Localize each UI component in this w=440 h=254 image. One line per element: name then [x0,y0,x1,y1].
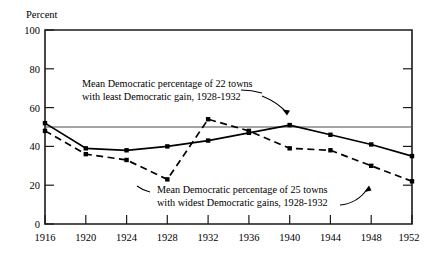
x-label-1928: 1928 [157,232,178,243]
x-label-1940: 1940 [279,232,300,243]
y-label-80: 80 [30,64,41,75]
x-label-1916: 1916 [35,232,56,243]
data-point [84,146,88,150]
series-line-widest-gains [45,119,412,181]
x-label-1952: 1952 [399,232,420,243]
y-label-60: 60 [30,103,41,114]
data-point [206,138,210,142]
annotation-least-gain-line1: Mean Democratic percentage of 22 towns [82,78,253,89]
data-point [84,152,88,156]
data-point [328,148,332,152]
data-point [328,133,332,137]
y-axis-labels: 100 80 60 40 20 0 [24,25,40,230]
data-point [124,148,128,152]
data-point [287,146,291,150]
y-axis-title: Percent [26,9,58,20]
x-axis-ticks [45,215,412,224]
chart-page: Percent 100 80 60 40 20 0 [0,0,440,254]
data-point [410,154,414,158]
y-label-20: 20 [30,180,41,191]
x-label-1948: 1948 [361,232,382,243]
x-label-1932: 1932 [198,232,219,243]
data-point [410,179,414,183]
data-point [43,121,47,125]
data-point [206,117,210,121]
x-label-1936: 1936 [238,232,259,243]
data-point [369,164,373,168]
data-point [124,158,128,162]
leader-upper-tail [241,90,262,93]
x-axis-labels: 1916 1920 1924 1928 1932 1936 1940 1944 … [35,232,420,243]
leader-lower [340,188,368,205]
annotation-widest-gains-line2: with widest Democratic gains, 1928-1932 [157,197,328,208]
x-label-1920: 1920 [75,232,96,243]
data-point [43,129,47,133]
x-label-1944: 1944 [320,232,342,243]
y-label-40: 40 [30,141,41,152]
arrowhead-upper-icon [283,110,291,116]
annotation-widest-gains: Mean Democratic percentage of 25 towns w… [157,184,328,208]
data-point [165,177,169,181]
leader-lower-tail [137,186,150,192]
data-point [369,142,373,146]
data-point [247,129,251,133]
y-label-100: 100 [24,25,40,36]
annotation-widest-gains-line1: Mean Democratic percentage of 25 towns [157,184,328,195]
line-chart: Percent 100 80 60 40 20 0 [0,0,440,254]
annotation-least-gain: Mean Democratic percentage of 22 towns w… [82,78,253,102]
arrowhead-lower-icon [365,186,372,193]
y-label-0: 0 [35,219,40,230]
series-line-least-gain [45,123,412,156]
data-point [287,123,291,127]
x-label-1924: 1924 [116,232,138,243]
data-point [165,144,169,148]
annotation-least-gain-line2: with least Democratic gain, 1928-1932 [82,91,241,102]
